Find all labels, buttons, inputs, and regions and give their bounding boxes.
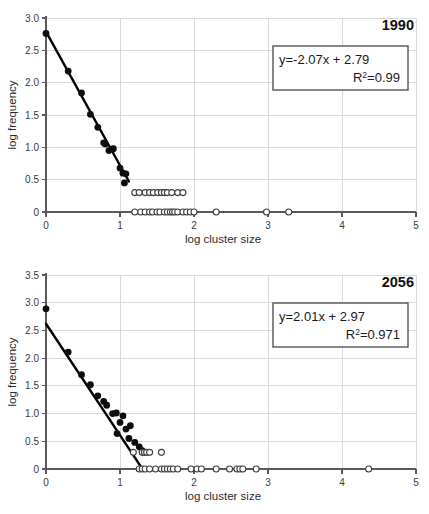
data-series [43,305,146,454]
x-tick-label: 5 [413,477,419,488]
y-tick-label: 3.5 [25,270,39,281]
y-tick-label: 2.5 [25,325,39,336]
y-tick-label: 2.0 [25,77,39,88]
data-point-open [213,466,219,472]
data-point-open [227,466,233,472]
x-axis-ticks: 012345 [43,212,419,231]
chart-panel-1990: 00.51.01.52.02.53.0012345log cluster siz… [0,0,429,257]
data-point-filled [114,430,121,437]
data-point-filled [123,170,130,177]
data-point-filled [94,392,101,399]
data-point-open [264,209,270,215]
y-tick-label: 0 [33,207,39,218]
y-tick-label: 1.0 [25,142,39,153]
x-tick-label: 3 [265,220,271,231]
data-point-filled [113,410,120,417]
data-point-open [213,209,219,215]
regression-fit-line [46,32,129,182]
equation-annotation: y=2.01x + 2.97R2=0.971 [273,303,408,347]
data-point-filled [117,419,124,426]
regression-fit-line [46,324,142,469]
r-squared-text: R2=0.971 [346,327,400,342]
y-tick-label: 0.5 [25,174,39,185]
equation-text: y=2.01x + 2.97 [279,309,365,324]
data-series [43,30,130,186]
data-series [130,449,164,455]
x-tick-label: 4 [339,220,345,231]
data-point-open [130,449,136,455]
equation-annotation: y=-2.07x + 2.79R2=0.99 [273,46,408,90]
data-point-open [188,466,194,472]
data-point-open [136,190,142,196]
data-point-filled [125,435,132,442]
panel-year-label: 2056 [382,274,414,290]
equation-text: y=-2.07x + 2.79 [279,52,369,67]
data-point-filled [94,124,101,131]
data-point-filled [43,305,50,312]
x-tick-label: 1 [117,477,123,488]
x-tick-label: 0 [43,477,49,488]
data-point-open [240,466,246,472]
data-point-filled [120,412,127,419]
data-point-open [147,466,153,472]
data-point-open [191,209,197,215]
r-squared-text: R2=0.99 [353,70,400,85]
chart-svg-2056: 00.51.01.52.02.53.03.5012345log cluster … [0,257,429,514]
data-point-filled [110,145,117,152]
data-point-open [253,466,259,472]
panel-year-label: 1990 [382,17,414,33]
y-tick-label: 0.5 [25,436,39,447]
y-axis-title: log frequency [6,337,18,406]
data-point-filled [65,68,72,75]
data-point-filled [102,141,109,148]
y-axis-ticks: 00.51.01.52.02.53.03.5 [25,270,46,475]
y-tick-label: 2.5 [25,45,39,56]
y-tick-label: 1.5 [25,380,39,391]
data-point-open [180,190,186,196]
x-tick-label: 5 [413,220,419,231]
data-point-filled [87,111,94,118]
chart-panel-2056: 00.51.01.52.02.53.03.5012345log cluster … [0,257,429,514]
data-point-filled [127,422,134,429]
data-point-open [147,449,153,455]
data-point-filled [65,349,72,356]
data-point-open [366,466,372,472]
y-axis-title: log frequency [6,80,18,149]
data-point-open [286,209,292,215]
data-point-open [198,466,204,472]
data-point-open [175,466,181,472]
x-tick-label: 1 [117,220,123,231]
x-tick-label: 2 [191,220,197,231]
data-point-filled [87,381,94,388]
y-tick-label: 3.0 [25,13,39,24]
y-axis-ticks: 00.51.01.52.02.53.0 [25,13,46,218]
data-point-filled [121,180,128,187]
data-point-open [153,466,159,472]
y-tick-label: 1.0 [25,408,39,419]
data-series [132,190,186,196]
y-tick-label: 0 [33,464,39,475]
y-tick-label: 2.0 [25,353,39,364]
data-point-filled [78,371,85,378]
x-tick-label: 2 [191,477,197,488]
data-point-filled [43,30,50,37]
x-axis-title: log cluster size [185,490,261,502]
y-tick-label: 3.0 [25,297,39,308]
data-point-filled [103,402,110,409]
x-axis-title: log cluster size [185,233,261,245]
data-point-filled [78,90,85,97]
data-point-open [132,209,138,215]
x-tick-label: 0 [43,220,49,231]
chart-svg-1990: 00.51.01.52.02.53.0012345log cluster siz… [0,0,429,257]
x-tick-label: 4 [339,477,345,488]
data-point-open [158,449,164,455]
x-tick-label: 3 [265,477,271,488]
y-tick-label: 1.5 [25,110,39,121]
data-point-open [169,190,175,196]
